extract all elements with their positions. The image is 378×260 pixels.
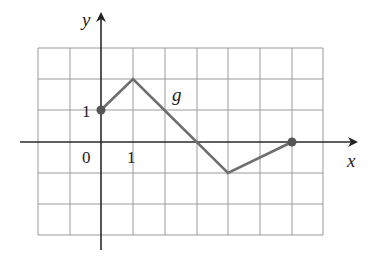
y-axis-label: y [80,9,91,30]
x-axis-label: x [346,150,356,171]
endpoint-start [97,106,106,115]
y-tick-label-1: 1 [82,102,91,121]
endpoint-end [288,138,297,147]
x-tick-label-1: 1 [127,148,136,167]
graph-of-g: y x 0 1 1 g [0,0,378,260]
curve-label-g: g [172,84,182,105]
origin-label: 0 [82,148,91,167]
